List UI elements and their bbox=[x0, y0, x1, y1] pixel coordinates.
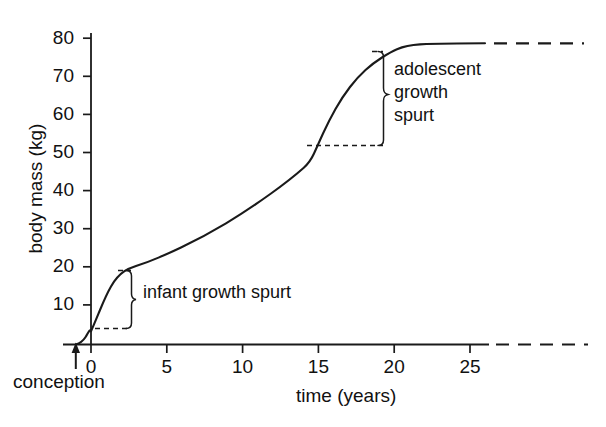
x-tick-label-25: 25 bbox=[450, 356, 490, 377]
y-tick-label-70: 70 bbox=[30, 65, 74, 86]
adolescent-growth-spurt-label: adolescent growth spurt bbox=[394, 58, 481, 127]
x-tick-label-5: 5 bbox=[147, 356, 187, 377]
conception-label: conception bbox=[13, 371, 105, 392]
y-axis-ticks bbox=[83, 38, 91, 305]
adolescent-label-line-3: spurt bbox=[394, 104, 481, 127]
y-tick-label-80: 80 bbox=[30, 27, 74, 48]
adolescent-label-line-2: growth bbox=[394, 81, 481, 104]
adolescent-label-line-1: adolescent bbox=[394, 58, 481, 81]
adolescent-spurt-brace-icon bbox=[378, 52, 388, 146]
x-axis-title: time (years) bbox=[296, 385, 396, 406]
x-tick-label-10: 10 bbox=[223, 356, 263, 377]
x-tick-label-20: 20 bbox=[374, 356, 414, 377]
y-axis-title: body mass (kg) bbox=[25, 109, 46, 269]
growth-curve-figure: 80 70 60 50 40 30 20 10 0 5 10 15 20 25 … bbox=[0, 0, 606, 427]
y-tick-label-10: 10 bbox=[30, 293, 74, 314]
infant-growth-spurt-label: infant growth spurt bbox=[143, 282, 291, 302]
infant-spurt-brace-icon bbox=[126, 271, 136, 329]
x-axis-ticks bbox=[91, 345, 470, 354]
x-tick-label-15: 15 bbox=[298, 356, 338, 377]
